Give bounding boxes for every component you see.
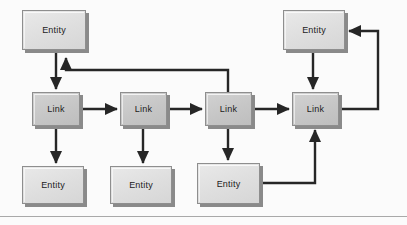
node-entity-top-left[interactable]: Entity bbox=[22, 10, 86, 50]
node-label: Entity bbox=[302, 25, 326, 35]
node-label: Link bbox=[47, 104, 64, 114]
node-label: Entity bbox=[41, 180, 65, 190]
node-entity-bottom-mid[interactable]: Entity bbox=[110, 166, 172, 204]
edge-entity-bottom-right-to-link-4 bbox=[260, 130, 315, 183]
node-label: Link bbox=[220, 104, 237, 114]
node-label: Entity bbox=[42, 25, 66, 35]
node-link-3[interactable]: Link bbox=[205, 92, 252, 126]
node-link-1[interactable]: Link bbox=[32, 92, 80, 126]
bottom-rule bbox=[0, 216, 407, 217]
node-entity-top-right[interactable]: Entity bbox=[283, 10, 345, 50]
node-entity-bottom-left[interactable]: Entity bbox=[22, 166, 84, 204]
node-link-2[interactable]: Link bbox=[120, 92, 167, 126]
node-label: Entity bbox=[217, 179, 241, 189]
node-entity-bottom-right[interactable]: Entity bbox=[197, 163, 260, 204]
node-label: Link bbox=[135, 104, 152, 114]
node-link-4[interactable]: Link bbox=[292, 92, 339, 126]
node-label: Entity bbox=[129, 180, 153, 190]
diagram-canvas: EntityEntityLinkLinkLinkLinkEntityEntity… bbox=[0, 0, 407, 225]
node-label: Link bbox=[307, 104, 324, 114]
edge-link-3-feedback-to-entity-top-left bbox=[66, 58, 228, 92]
